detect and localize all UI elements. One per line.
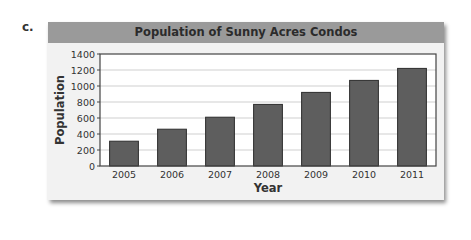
problem-label: c. (22, 20, 34, 34)
y-axis-title: Population (53, 75, 67, 145)
bar-chart: 0200400600800100012001400200520062007200… (48, 22, 444, 200)
x-tick-label: 2011 (400, 169, 424, 180)
x-tick-label: 2008 (256, 169, 280, 180)
x-axis-title: Year (253, 181, 283, 195)
y-tick-label: 0 (89, 161, 95, 172)
y-tick-label: 1400 (71, 49, 95, 60)
y-tick-label: 1200 (71, 65, 95, 76)
bar-2010 (350, 80, 379, 166)
x-tick-label: 2007 (208, 169, 232, 180)
bar-2008 (254, 104, 283, 166)
bar-2011 (398, 68, 427, 166)
y-tick-label: 200 (77, 145, 95, 156)
x-tick-label: 2010 (352, 169, 376, 180)
y-tick-label: 600 (77, 113, 95, 124)
x-tick-label: 2009 (304, 169, 328, 180)
y-tick-label: 400 (77, 129, 95, 140)
bar-2007 (206, 117, 235, 166)
chart-frame: Population of Sunny Acres Condos 0200400… (48, 22, 444, 200)
bar-2005 (110, 141, 139, 166)
y-tick-label: 1000 (71, 81, 95, 92)
x-tick-label: 2005 (112, 169, 136, 180)
y-tick-label: 800 (77, 97, 95, 108)
x-tick-label: 2006 (160, 169, 184, 180)
bar-2009 (302, 92, 331, 166)
bar-2006 (158, 129, 187, 166)
